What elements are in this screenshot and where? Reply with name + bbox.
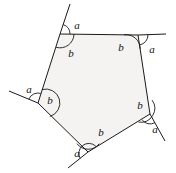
angle-label-b-bottom: b xyxy=(98,127,104,138)
angle-label-a-bottom: a xyxy=(74,148,80,159)
angle-label-b-left: b xyxy=(47,95,53,106)
angle-label-a-left: a xyxy=(26,84,32,95)
pentagon-shape xyxy=(38,34,150,152)
arc-a-top-left xyxy=(63,25,70,34)
arc-a-top-right xyxy=(140,35,149,45)
angle-label-b-right: b xyxy=(137,100,143,111)
angle-label-a-top-left: a xyxy=(74,20,80,31)
angle-label-b-top-right: b xyxy=(118,42,124,53)
extension-line-left-upleft xyxy=(9,91,38,103)
extension-line-top-right xyxy=(138,34,166,35)
angle-label-a-top-right: a xyxy=(149,44,155,55)
angle-label-a-right: a xyxy=(152,124,158,135)
pentagon-angle-diagram: a b b a a b b a b a xyxy=(0,0,176,173)
angle-label-b-top-left: b xyxy=(68,48,74,59)
extension-line-top-left-up xyxy=(60,4,70,34)
